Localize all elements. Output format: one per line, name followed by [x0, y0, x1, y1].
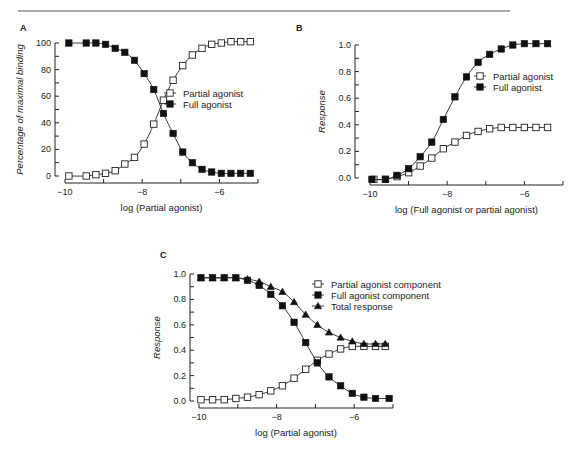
panel-label: A — [20, 23, 27, 33]
data-point-marker — [303, 366, 309, 372]
x-axis: −10−8−6log (Partial agonist) — [191, 404, 393, 438]
data-point-marker — [93, 171, 99, 177]
data-point-marker — [233, 395, 239, 401]
legend-item-total-response: Total response — [312, 301, 393, 312]
data-point-marker — [102, 170, 108, 176]
data-point-marker — [544, 40, 550, 46]
x-tick-label: −8 — [137, 187, 147, 197]
data-point-marker — [521, 124, 527, 130]
y-tick-label: 0.6 — [338, 93, 351, 103]
data-point-marker — [314, 321, 321, 327]
open-square-icon — [477, 73, 483, 79]
data-point-marker — [180, 149, 186, 155]
y-axis: 020406080100Percentage of maximal bindin… — [14, 38, 59, 181]
data-point-marker — [199, 166, 205, 172]
data-point-marker — [208, 41, 214, 47]
data-point-marker — [247, 38, 253, 44]
data-point-marker — [102, 41, 108, 47]
legend-item-full-agonist-component: Full agonist component — [312, 290, 430, 301]
data-point-marker — [198, 397, 204, 403]
data-point-marker — [337, 334, 344, 340]
data-point-marker — [394, 172, 400, 178]
data-point-marker — [510, 42, 516, 48]
data-point-marker — [291, 319, 297, 325]
data-point-marker — [237, 38, 243, 44]
data-point-marker — [498, 46, 504, 52]
y-tick-label: 0.8 — [173, 294, 186, 304]
data-point-marker — [475, 128, 481, 134]
legend-label: Partial agonist — [183, 88, 244, 99]
panel-label: C — [160, 250, 167, 260]
data-point-marker — [326, 374, 332, 380]
data-point-marker — [440, 146, 446, 152]
y-tick-label: 0.0 — [338, 173, 351, 183]
x-tick-label: −10 — [57, 187, 72, 197]
x-axis-title: log (Partial agonist) — [255, 427, 337, 438]
x-tick-label: −6 — [214, 187, 224, 197]
x-tick-label: −6 — [519, 189, 529, 199]
legend-label: Full agonist — [493, 82, 542, 93]
x-tick-label: −10 — [191, 412, 206, 422]
data-point-marker — [349, 390, 355, 396]
open-square-icon — [167, 90, 173, 96]
data-point-marker — [141, 70, 147, 76]
series-full-agonist — [369, 40, 551, 182]
data-point-marker — [189, 52, 195, 58]
data-point-marker — [498, 124, 504, 130]
legend-label: Full agonist component — [331, 290, 430, 301]
data-point-marker — [544, 124, 550, 130]
data-point-marker — [267, 283, 274, 289]
data-point-marker — [256, 391, 262, 397]
data-point-marker — [463, 132, 469, 138]
legend: Partial agonistFull agonist — [474, 71, 554, 93]
data-point-marker — [170, 77, 176, 83]
y-tick-label: 0.4 — [338, 120, 351, 130]
x-axis: −10−8−6log (Partial agonist) — [57, 179, 258, 213]
data-point-marker — [160, 97, 166, 103]
data-point-marker — [66, 173, 72, 179]
filled-square-icon — [167, 101, 173, 107]
data-point-marker — [180, 62, 186, 68]
data-point-marker — [199, 45, 205, 51]
y-tick-label: 0.2 — [173, 371, 186, 381]
legend-item-partial-agonist: Partial agonist — [164, 88, 244, 99]
legend-item-full-agonist: Full agonist — [164, 99, 232, 110]
data-point-marker — [369, 176, 375, 182]
data-point-marker — [170, 130, 176, 136]
data-point-marker — [122, 49, 128, 55]
panel-a: A 020406080100Percentage of maximal bind… — [14, 23, 258, 213]
data-point-marker — [291, 375, 297, 381]
data-point-marker — [521, 40, 527, 46]
y-tick-label: 0.4 — [173, 345, 186, 355]
data-point-marker — [452, 94, 458, 100]
data-point-marker — [228, 38, 234, 44]
data-point-marker — [151, 121, 157, 127]
data-point-marker — [237, 170, 243, 176]
legend-label: Full agonist — [183, 99, 232, 110]
figure: A 020406080100Percentage of maximal bind… — [0, 0, 579, 450]
data-point-marker — [218, 40, 224, 46]
data-point-marker — [141, 141, 147, 147]
open-square-icon — [315, 281, 321, 287]
data-point-marker — [93, 40, 99, 46]
data-point-marker — [475, 59, 481, 65]
x-tick-label: −8 — [271, 412, 281, 422]
data-point-marker — [337, 346, 343, 352]
data-point-marker — [268, 388, 274, 394]
x-axis-title: log (Partial agonist) — [121, 202, 203, 213]
data-point-marker — [417, 154, 423, 160]
panel-b: B 0.00.20.40.60.81.0Response−10−8−6log (… — [296, 23, 563, 215]
legend-label: Partial agonist component — [331, 279, 441, 290]
data-point-marker — [486, 126, 492, 132]
x-axis-title: log (Full agonist or partial agonist) — [395, 204, 538, 215]
data-point-marker — [326, 351, 332, 357]
data-point-marker — [279, 303, 285, 309]
data-point-marker — [279, 383, 285, 389]
y-tick-label: 80 — [41, 65, 51, 75]
data-point-marker — [122, 161, 128, 167]
legend-item-partial-agonist: Partial agonist — [474, 71, 554, 82]
legend-item-partial-agonist-component: Partial agonist component — [312, 279, 441, 290]
data-point-marker — [372, 395, 378, 401]
x-tick-label: −6 — [349, 412, 359, 422]
data-point-marker — [244, 394, 250, 400]
